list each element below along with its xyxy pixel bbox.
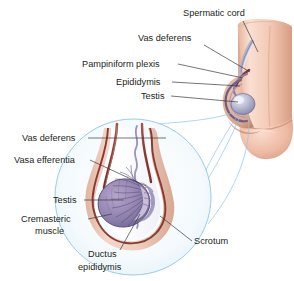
- label-ductus-epididymis-line-1: Ductus: [88, 249, 117, 259]
- label-cremasteric-muscle-line-2: muscle: [35, 226, 64, 236]
- label-testis-upper: Testis: [141, 91, 165, 101]
- label-testis-lower: Testis: [53, 195, 77, 205]
- testis-small-highlight: [234, 96, 244, 104]
- label-scrotum: Scrotum: [194, 236, 229, 246]
- label-vasa-efferentia: Vasa efferentia: [14, 155, 76, 165]
- label-vas-deferens-upper: Vas deferens: [138, 33, 192, 43]
- lower-inset-illustration: [55, 119, 211, 275]
- label-spermatic-cord: Spermatic cord: [183, 8, 245, 18]
- label-vas-deferens-lower: Vas deferens: [22, 133, 76, 143]
- anatomy-figure: Spermatic cord Vas deferens Pampiniform …: [0, 0, 294, 281]
- label-epididymis-upper: Epididymis: [116, 77, 161, 87]
- label-pampiniform-plexis: Pampiniform plexis: [82, 59, 160, 69]
- label-ductus-epididymis-line-2: epididymis: [78, 262, 122, 272]
- label-cremasteric-muscle-line-1: Cremasteric: [21, 214, 71, 224]
